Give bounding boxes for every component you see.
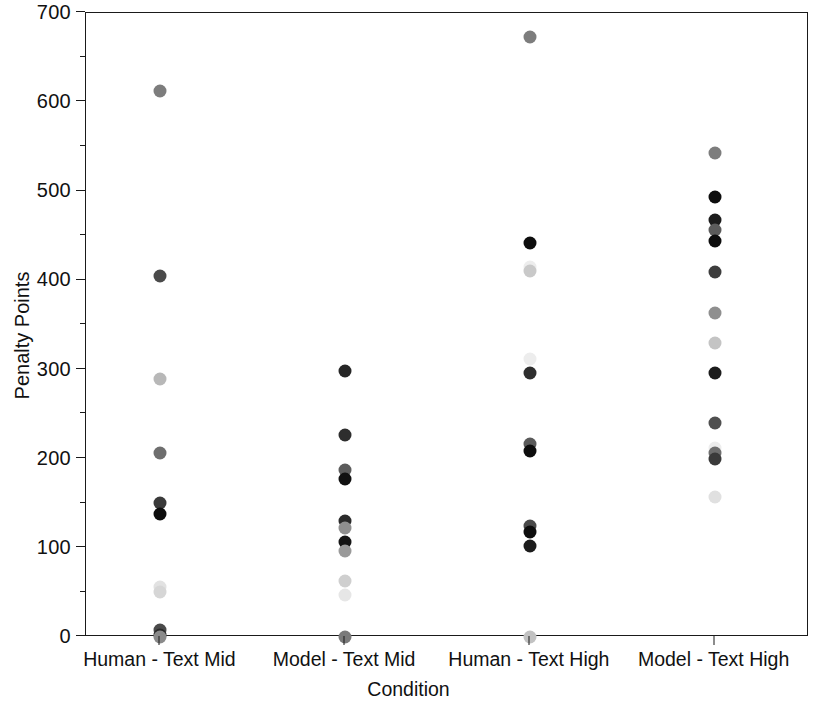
data-point bbox=[523, 444, 536, 457]
data-point bbox=[708, 417, 721, 430]
data-point bbox=[339, 574, 352, 587]
y-tick-label: 400 bbox=[37, 268, 71, 291]
y-tick-label: 700 bbox=[37, 1, 71, 24]
y-tick-label: 100 bbox=[37, 535, 71, 558]
y-axis-title: Penalty Points bbox=[11, 236, 34, 436]
data-point bbox=[339, 522, 352, 535]
y-tick-major bbox=[76, 546, 85, 547]
y-tick-major bbox=[76, 279, 85, 280]
data-point bbox=[154, 586, 167, 599]
data-point bbox=[523, 525, 536, 538]
data-point bbox=[708, 265, 721, 278]
x-tick bbox=[344, 636, 345, 645]
y-tick-label: 300 bbox=[37, 357, 71, 380]
y-axis: Penalty Points 0100200300400500600700 bbox=[0, 0, 85, 712]
data-point bbox=[708, 452, 721, 465]
data-point bbox=[708, 146, 721, 159]
data-point bbox=[339, 473, 352, 486]
data-point bbox=[708, 367, 721, 380]
data-point bbox=[154, 269, 167, 282]
data-point bbox=[523, 352, 536, 365]
x-tick bbox=[159, 636, 160, 645]
data-point bbox=[154, 447, 167, 460]
data-point bbox=[154, 84, 167, 97]
data-point bbox=[339, 365, 352, 378]
data-point bbox=[708, 235, 721, 248]
data-point bbox=[523, 31, 536, 44]
y-tick-label: 500 bbox=[37, 179, 71, 202]
x-axis: Condition Human - Text MidModel - Text M… bbox=[0, 636, 817, 712]
y-tick-major bbox=[76, 457, 85, 458]
y-tick-major bbox=[76, 11, 85, 12]
y-tick-label: 600 bbox=[37, 90, 71, 113]
data-point bbox=[339, 428, 352, 441]
data-points-layer bbox=[86, 13, 807, 635]
data-point bbox=[154, 373, 167, 386]
y-tick-major bbox=[76, 368, 85, 369]
data-point bbox=[708, 190, 721, 203]
scatter-plot-figure: Penalty Points 0100200300400500600700 Co… bbox=[0, 0, 817, 712]
y-tick-label: 200 bbox=[37, 446, 71, 469]
data-point bbox=[523, 367, 536, 380]
data-point bbox=[523, 264, 536, 277]
data-point bbox=[708, 307, 721, 320]
data-point bbox=[339, 544, 352, 557]
data-point bbox=[708, 491, 721, 504]
data-point bbox=[523, 540, 536, 553]
x-tick bbox=[713, 636, 714, 645]
x-tick-label: Human - Text High bbox=[448, 648, 609, 671]
x-tick bbox=[528, 636, 529, 645]
data-point bbox=[708, 336, 721, 349]
x-tick-label: Model - Text Mid bbox=[273, 648, 416, 671]
data-point bbox=[523, 236, 536, 249]
y-tick-major bbox=[76, 100, 85, 101]
data-point bbox=[154, 507, 167, 520]
x-tick-label: Human - Text Mid bbox=[83, 648, 235, 671]
y-tick-major bbox=[76, 190, 85, 191]
x-axis-title: Condition bbox=[0, 678, 817, 701]
x-tick-label: Model - Text High bbox=[638, 648, 789, 671]
plot-area bbox=[85, 12, 808, 636]
data-point bbox=[339, 589, 352, 602]
